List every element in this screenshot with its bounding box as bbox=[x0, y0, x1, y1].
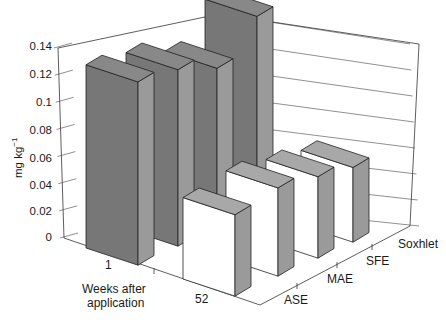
x-category-52: 52 bbox=[195, 292, 208, 306]
bar-ase-week-1 bbox=[86, 55, 154, 265]
y-tick-0.08: 0.08 bbox=[8, 124, 52, 136]
y-tick-0.14: 0.14 bbox=[8, 40, 52, 52]
y-axis-label: mg kg−1 bbox=[10, 138, 24, 178]
depth-label-sfe: SFE bbox=[366, 254, 389, 268]
x-category-1: 1 bbox=[105, 258, 112, 272]
depth-label-soxhlet: Soxhlet bbox=[398, 237, 438, 251]
y-tick-0.04: 0.04 bbox=[8, 179, 52, 191]
y-tick-0.02: 0.02 bbox=[8, 205, 52, 217]
y-tick-0.12: 0.12 bbox=[8, 68, 52, 80]
x-axis-title-line1: Weeks after bbox=[82, 282, 146, 296]
y-tick-0.1: 0.1 bbox=[8, 96, 52, 108]
bar-ase-week-52 bbox=[183, 188, 251, 296]
depth-label-ase: ASE bbox=[284, 293, 308, 307]
y-tick-0: 0 bbox=[8, 231, 52, 243]
x-axis-title-line2: application bbox=[87, 296, 144, 310]
chart-3d-bar bbox=[0, 0, 446, 327]
depth-label-mae: MAE bbox=[327, 272, 353, 286]
bars bbox=[86, 0, 369, 296]
